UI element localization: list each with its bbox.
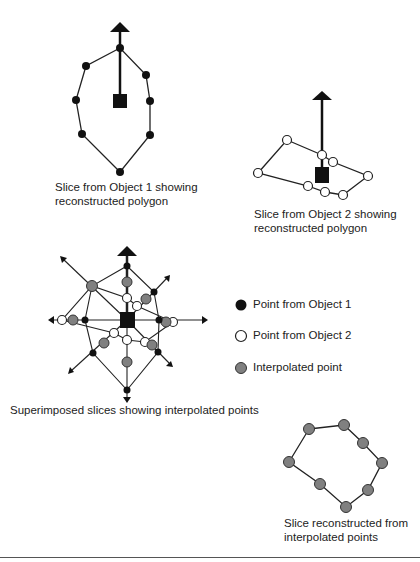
arrow-downright-icon [166, 361, 173, 367]
object1-caption-line2: reconstructed polygon [55, 194, 198, 208]
object1-slice [72, 22, 154, 176]
superimposed-caption: Superimposed slices showing interpolated… [10, 403, 259, 417]
object1-caption: Slice from Object 1 showing reconstructe… [55, 180, 198, 208]
object1-points [72, 44, 154, 176]
object2-arrow-head-icon [312, 91, 332, 100]
legend-object2-icon [236, 331, 247, 342]
bottom-divider [0, 557, 420, 558]
object2-caption-line1: Slice from Object 2 showing [254, 207, 397, 221]
arrow-up-icon [117, 246, 137, 256]
diagram-canvas [0, 0, 420, 562]
superimposed-slices [48, 246, 208, 403]
object1-caption-line1: Slice from Object 1 showing [55, 180, 198, 194]
object2-slice [254, 91, 373, 200]
arrow-left-icon [48, 316, 54, 324]
reconstructed-slice [284, 420, 388, 513]
object2-centroid [315, 167, 329, 183]
object2-caption: Slice from Object 2 showing reconstructe… [254, 207, 397, 235]
legend-label-interpolated: Interpolated point [253, 361, 342, 373]
superimposed-centroid [120, 312, 135, 328]
legend-interpolated-icon [236, 363, 247, 374]
object1-arrow-head-icon [110, 22, 130, 32]
legend-label-object1: Point from Object 1 [253, 298, 351, 310]
arrow-downleft-icon [68, 367, 74, 374]
reconstructed-caption: Slice reconstructed from interpolated po… [284, 516, 408, 544]
object1-centroid [113, 94, 127, 108]
legend-object1-icon [236, 300, 247, 311]
legend-markers [236, 300, 247, 374]
reconstructed-caption-line2: interpolated points [284, 530, 408, 544]
arrow-right-icon [202, 316, 208, 324]
object2-caption-line2: reconstructed polygon [254, 221, 397, 235]
legend-label-object2: Point from Object 2 [253, 329, 351, 341]
object2-points [254, 136, 373, 200]
reconstructed-caption-line1: Slice reconstructed from [284, 516, 408, 530]
